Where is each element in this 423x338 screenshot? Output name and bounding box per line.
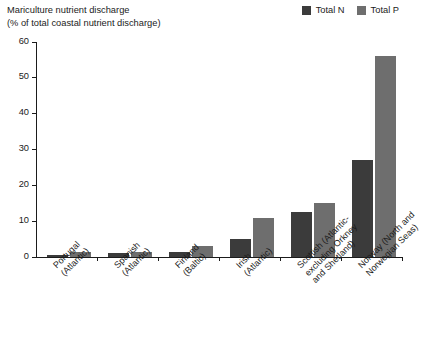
- y-axis-tick: 60: [32, 42, 36, 43]
- y-axis-tick-label: 10: [19, 215, 29, 225]
- y-axis-line: [36, 42, 37, 258]
- chart-title-line-1: Mariculture nutrient discharge: [7, 4, 160, 17]
- y-axis-tick: 30: [32, 149, 36, 150]
- y-axis-tick-label: 20: [19, 179, 29, 189]
- y-axis-tick-label: 50: [19, 71, 29, 81]
- x-axis-tick: [158, 257, 159, 261]
- chart-legend: Total NTotal P: [302, 5, 399, 15]
- legend-item-label: Total P: [371, 5, 399, 15]
- y-axis-tick: 0: [32, 257, 36, 258]
- y-axis-tick-label: 30: [19, 143, 29, 153]
- chart-title: Mariculture nutrient discharge (% of tot…: [7, 4, 160, 29]
- x-axis-tick: [280, 257, 281, 261]
- x-axis-tick: [402, 257, 403, 261]
- y-axis-tick-label: 60: [19, 36, 29, 46]
- y-axis-tick: 10: [32, 221, 36, 222]
- y-axis-tick-label: 0: [24, 251, 29, 261]
- x-axis-tick: [219, 257, 220, 261]
- y-axis-tick: 50: [32, 77, 36, 78]
- chart-title-line-2: (% of total coastal nutrient discharge): [7, 17, 160, 30]
- legend-swatch-total-p: [357, 6, 366, 15]
- y-axis-tick-label: 40: [19, 107, 29, 117]
- legend-item-label: Total N: [316, 5, 345, 15]
- legend-swatch-total-n: [302, 6, 311, 15]
- y-axis-tick: 20: [32, 185, 36, 186]
- x-axis-tick: [97, 257, 98, 261]
- y-axis-tick: 40: [32, 113, 36, 114]
- legend-item: Total N: [302, 5, 345, 15]
- legend-item: Total P: [357, 5, 399, 15]
